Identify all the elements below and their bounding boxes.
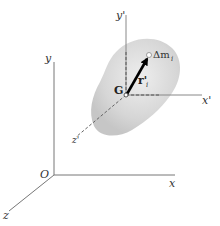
svg-text:i: i bbox=[171, 55, 173, 63]
position-vector-label: r' i bbox=[138, 74, 148, 89]
center-of-mass-label: G bbox=[114, 84, 123, 97]
center-of-mass-point bbox=[124, 93, 128, 97]
z-prime-axis-label: z' bbox=[71, 135, 79, 145]
y-axis-label: y bbox=[44, 52, 52, 65]
mass-element-point bbox=[147, 53, 152, 58]
x-prime-axis-label: x' bbox=[202, 94, 211, 107]
svg-text:i: i bbox=[146, 81, 148, 89]
x-axis-label: x bbox=[169, 177, 176, 190]
svg-text:Δm: Δm bbox=[153, 49, 170, 60]
origin-label: O bbox=[40, 168, 49, 181]
rigid-body-diagram: y x z O y' x' z' G Δm i r' i bbox=[0, 0, 220, 226]
z-axis-label: z bbox=[2, 209, 9, 222]
y-prime-axis-label: y' bbox=[115, 9, 125, 22]
